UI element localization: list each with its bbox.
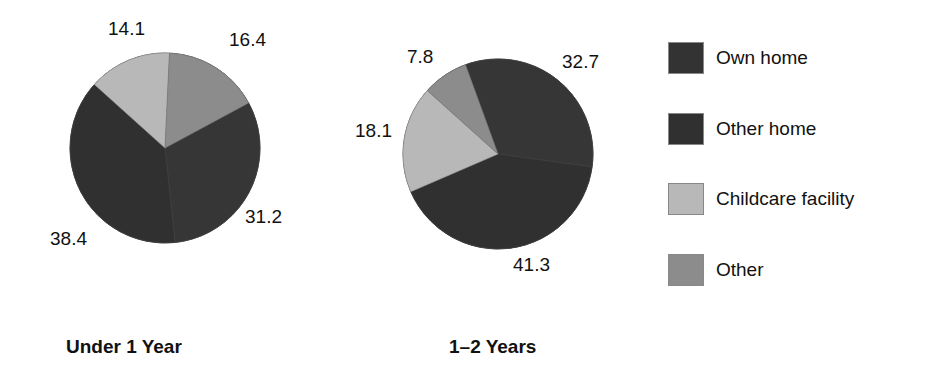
legend-item-childcare-facility: Childcare facility (668, 183, 854, 215)
legend-label: Own home (716, 47, 808, 69)
legend-swatch-own-home (668, 42, 704, 74)
legend: Own home Other home Childcare facility O… (668, 42, 854, 324)
legend-item-other-home: Other home (668, 113, 854, 145)
legend-swatch-other (668, 254, 704, 286)
pie-under-1-year: 14.1 16.4 31.2 38.4 (50, 18, 282, 249)
legend-swatch-other-home (668, 113, 704, 145)
pie1-title: Under 1 Year (66, 336, 182, 358)
pie2-title: 1–2 Years (449, 336, 536, 358)
legend-label: Childcare facility (716, 188, 854, 210)
legend-item-own-home: Own home (668, 42, 854, 74)
pie1-label-other-home: 38.4 (50, 228, 87, 249)
pie2-label-other-home: 41.3 (513, 254, 550, 275)
pie1-label-other: 16.4 (229, 29, 266, 50)
pie2-label-childcare: 18.1 (355, 120, 392, 141)
pie2-label-own-home: 32.7 (562, 51, 599, 72)
pie1-label-own-home: 31.2 (245, 206, 282, 227)
legend-label: Other (716, 259, 764, 281)
legend-item-other: Other (668, 254, 854, 286)
legend-label: Other home (716, 118, 816, 140)
pie2-label-other: 7.8 (407, 46, 433, 67)
legend-swatch-childcare-facility (668, 183, 704, 215)
pie-1-2-years: 7.8 32.7 18.1 41.3 (355, 46, 599, 275)
pie1-label-childcare: 14.1 (108, 18, 145, 39)
